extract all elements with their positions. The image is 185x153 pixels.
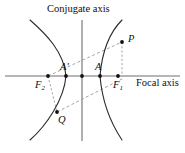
- point-p-label: P: [128, 34, 134, 45]
- point-p: [120, 40, 124, 44]
- point-focus-right: [116, 74, 120, 78]
- point-q-label: Q: [58, 115, 66, 126]
- point-vertex-left: [64, 74, 68, 78]
- focal-axis-label: Focal axis: [136, 78, 179, 89]
- focus-left-subscript: 2: [41, 84, 45, 92]
- focus-right-subscript: 1: [119, 84, 123, 92]
- point-vertex-right: [98, 74, 102, 78]
- point-center: [80, 74, 84, 78]
- focus-right-label: F1: [113, 80, 123, 91]
- vertex-right-label: A: [95, 62, 101, 73]
- focus-left-label: F2: [35, 80, 45, 91]
- hyperbola-figure: Conjugate axis Focal axis P Q A A' F1 F2: [0, 0, 185, 153]
- vertex-left-label: A': [60, 62, 69, 73]
- point-focus-left: [46, 74, 50, 78]
- conjugate-axis-label: Conjugate axis: [47, 4, 110, 15]
